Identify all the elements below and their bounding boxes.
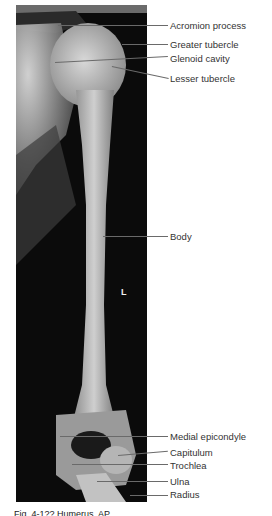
label-capitulum: Capitulum <box>170 447 213 458</box>
label-greater-tubercle: Greater tubercle <box>170 39 239 50</box>
humerus-shaft <box>72 90 116 425</box>
capitulum-shape <box>100 446 132 474</box>
label-trochlea: Trochlea <box>170 460 207 471</box>
label-glenoid-cavity: Glenoid cavity <box>170 53 230 64</box>
leader-acromion-process <box>58 25 168 26</box>
leader-radius <box>130 495 168 496</box>
label-acromion-process: Acromion process <box>170 20 246 31</box>
figure-caption: Fig. 4-1?? Humerus, AP <box>14 510 124 516</box>
leader-greater-tubercle <box>122 44 168 45</box>
label-radius: Radius <box>170 489 200 500</box>
leader-ulna <box>97 481 168 482</box>
label-ulna: Ulna <box>170 476 190 487</box>
label-body: Body <box>170 231 192 242</box>
side-marker: L <box>121 287 127 297</box>
leader-trochlea <box>72 464 168 465</box>
humerus-xray-image <box>16 5 147 502</box>
leader-body <box>103 236 168 237</box>
label-medial-epicondyle: Medial epicondyle <box>170 431 246 442</box>
leader-medial-epicondyle <box>60 436 168 437</box>
top-band <box>16 5 147 13</box>
label-lesser-tubercle: Lesser tubercle <box>170 73 235 84</box>
xray-graphic <box>16 5 147 502</box>
